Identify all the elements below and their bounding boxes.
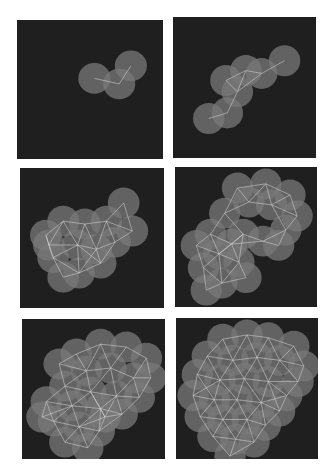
disk-layer [177, 319, 318, 459]
panel-6 [176, 318, 318, 459]
panel-2 [173, 17, 316, 158]
panel-3 [20, 168, 164, 308]
panel-3-canvas [20, 168, 164, 308]
panel-6-canvas [176, 318, 318, 459]
disk-layer [26, 329, 165, 459]
panel-1-canvas [17, 20, 163, 159]
panel-5 [22, 319, 165, 459]
panel-1 [17, 20, 163, 159]
panel-2-canvas [173, 17, 316, 158]
disk-layer [193, 45, 300, 134]
disk-layer [181, 168, 313, 305]
panel-5-canvas [22, 319, 165, 459]
disk-layer [78, 51, 147, 100]
panel-4-canvas [175, 167, 317, 307]
disk [47, 262, 79, 293]
panel-4 [175, 167, 317, 307]
